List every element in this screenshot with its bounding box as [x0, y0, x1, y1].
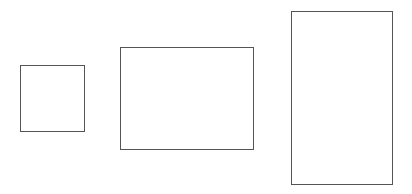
diagram-canvas — [0, 0, 412, 194]
square-rectangle — [20, 65, 85, 132]
landscape-rectangle — [120, 47, 254, 150]
portrait-rectangle — [291, 11, 393, 185]
